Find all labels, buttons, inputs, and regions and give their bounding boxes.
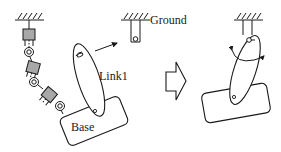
- revolute-joint-icon: [56, 102, 65, 111]
- left-ground-hatch: [15, 13, 44, 29]
- revolute-joint-icon: [30, 78, 39, 87]
- ground-label: Ground: [150, 13, 187, 27]
- prismatic-joint-icon: [24, 61, 40, 81]
- prismatic-joint-icon: [23, 29, 35, 47]
- base-label: Base: [71, 120, 94, 134]
- ground-fixture-icon: [121, 13, 150, 42]
- attach-arrow-icon: [95, 43, 117, 51]
- mechanism-diagram: Link1 Base Ground: [0, 0, 281, 152]
- revolute-joint-icon: [25, 48, 34, 57]
- prismatic-joint-icon: [37, 87, 57, 108]
- right-ground-hatch: [234, 13, 263, 35]
- link1-label: Link1: [99, 69, 128, 83]
- serial-joint-chain: [23, 29, 65, 114]
- transition-arrow-icon: [166, 62, 186, 100]
- diagram-svg: Link1 Base Ground: [0, 0, 281, 152]
